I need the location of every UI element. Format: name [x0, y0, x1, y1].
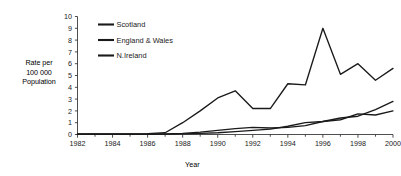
y-axis-tick-label: 2: [68, 107, 72, 116]
y-axis-tick-label: 0: [68, 130, 72, 139]
y-axis-tick-label: 3: [68, 95, 72, 104]
legend-label-1: Scotland: [117, 20, 146, 29]
x-axis-tick-label: 1992: [245, 139, 261, 148]
y-axis-tick-label: 7: [68, 48, 72, 57]
y-axis-tick-label: 10: [64, 12, 72, 21]
x-axis-tick-label: 1984: [105, 139, 121, 148]
x-axis-tick-label: 1994: [280, 139, 296, 148]
x-axis-tick-label: 1982: [70, 139, 86, 148]
series-line-n-ireland: [78, 111, 394, 134]
x-axis-tick-label: 1998: [350, 139, 366, 148]
x-axis-tick-label: 1986: [140, 139, 156, 148]
y-axis-tick-label: 8: [68, 36, 72, 45]
y-axis-title-line-3: Population: [8, 77, 70, 87]
plot-area: 0123456789101982198419861988199019921994…: [0, 0, 401, 176]
legend-label-2: England & Wales: [117, 36, 174, 45]
y-axis-title: Rate per 100 000 Population: [8, 58, 70, 87]
line-chart: Rate per 100 000 Population Year 0123456…: [0, 0, 401, 176]
legend-label-3: N.Ireland: [117, 51, 147, 60]
y-axis-title-line-2: 100 000: [8, 68, 70, 78]
x-axis-tick-label: 2000: [385, 139, 401, 148]
x-axis-title: Year: [185, 160, 200, 169]
x-axis-tick-label: 1996: [315, 139, 331, 148]
y-axis-tick-label: 1: [68, 118, 72, 127]
y-axis-title-line-1: Rate per: [8, 58, 70, 68]
y-axis-tick-label: 9: [68, 24, 72, 33]
x-axis-tick-label: 1990: [210, 139, 226, 148]
x-axis-tick-label: 1988: [175, 139, 191, 148]
